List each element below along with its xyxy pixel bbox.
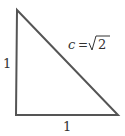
- triangle-diagram: 1 1 c = 2: [0, 0, 125, 136]
- equals-sign: =: [78, 38, 88, 52]
- left-side-label: 1: [3, 56, 11, 71]
- hypotenuse-label: c = 2: [68, 36, 110, 52]
- sqrt-radicand: 2: [98, 37, 106, 52]
- bottom-side-label: 1: [63, 119, 71, 134]
- right-triangle: [16, 10, 118, 115]
- hypotenuse-var: c: [68, 37, 76, 52]
